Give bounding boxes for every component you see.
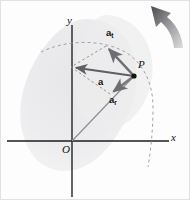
vector-a-r-label: ar — [109, 95, 117, 105]
physics-figure-rotating-body: y x O P a at ar — [0, 0, 190, 200]
y-axis-label: y — [67, 15, 72, 26]
vector-a-label-text: a — [98, 76, 103, 87]
vector-a-r-subscript: r — [114, 99, 117, 106]
rigid-body-blob — [20, 15, 152, 171]
figure-canvas — [1, 1, 190, 200]
x-axis-label: x — [171, 132, 176, 143]
vector-a-label: a — [98, 77, 103, 87]
origin-label: O — [62, 144, 70, 155]
vector-a-t-label: at — [106, 28, 113, 38]
rotation-direction-arrow — [151, 6, 183, 48]
point-p-label: P — [138, 59, 145, 70]
point-p-marker — [131, 73, 136, 78]
